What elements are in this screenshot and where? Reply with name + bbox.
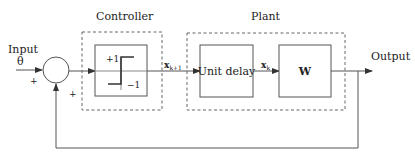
output-label: Output bbox=[371, 50, 411, 63]
signal-x-k-plus-1: xk+1 bbox=[164, 60, 182, 71]
controller-group: Controller +1 −1 bbox=[82, 10, 162, 110]
summing-junction bbox=[43, 57, 69, 83]
input-theta-symbol: θ bbox=[17, 55, 24, 68]
feedback-plus-sign: + bbox=[69, 89, 77, 99]
controller-title: Controller bbox=[96, 10, 154, 23]
signum-lower-label: −1 bbox=[127, 80, 140, 90]
signal-x-k: xk bbox=[261, 60, 270, 71]
signum-upper-label: +1 bbox=[106, 54, 119, 64]
plant-group: Plant Unit delay xk W bbox=[187, 10, 345, 110]
input-plus-sign: + bbox=[30, 76, 38, 86]
plant-title: Plant bbox=[251, 10, 281, 23]
unit-delay-label: Unit delay bbox=[198, 65, 256, 78]
w-block-label: W bbox=[298, 65, 312, 78]
feedback-block-diagram: Input θ + + Controller +1 −1 xk+1 Plant … bbox=[0, 0, 415, 160]
